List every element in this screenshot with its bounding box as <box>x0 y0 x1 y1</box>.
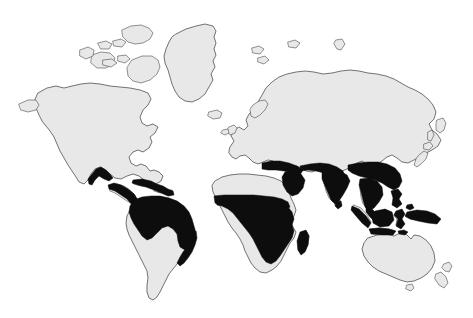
range-borneo <box>372 209 394 227</box>
world-map-canvas <box>0 0 473 318</box>
world-distribution-map-figure <box>0 0 473 318</box>
